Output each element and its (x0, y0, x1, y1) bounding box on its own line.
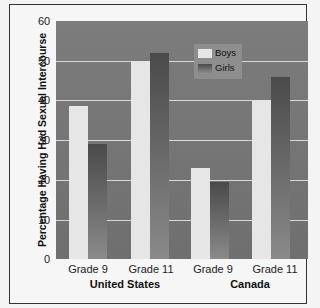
y-tick-60: 60 (38, 15, 50, 27)
bar-girls-3 (271, 77, 290, 259)
gridline-50 (56, 61, 308, 62)
x-tick-ca-grade11: Grade 11 (240, 263, 310, 275)
y-tick-20: 20 (38, 174, 50, 186)
y-tick-10: 10 (38, 214, 50, 226)
bar-boys-1 (131, 61, 150, 259)
legend-label-girls: Girls (215, 62, 235, 73)
bar-girls-0 (88, 144, 107, 259)
bar-boys-3 (252, 100, 271, 259)
legend: Boys Girls (194, 44, 242, 79)
y-tick-40: 40 (38, 94, 50, 106)
x-tick-ca-grade9: Grade 9 (178, 263, 248, 275)
legend-label-boys: Boys (215, 47, 236, 58)
legend-swatch-boys (198, 49, 212, 58)
x-tick-us-grade9: Grade 9 (53, 263, 123, 275)
group-label-canada: Canada (190, 278, 310, 290)
x-tick-us-grade11: Grade 11 (116, 263, 186, 275)
group-label-united-states: United States (65, 278, 185, 290)
bar-boys-0 (69, 106, 88, 259)
bar-girls-1 (150, 53, 169, 259)
y-tick-50: 50 (38, 55, 50, 67)
y-tick-30: 30 (38, 134, 50, 146)
legend-swatch-girls (198, 64, 212, 73)
plot-area: Boys Girls (56, 21, 308, 259)
bar-girls-2 (210, 182, 229, 259)
y-tick-0: 0 (44, 253, 50, 265)
bar-boys-2 (191, 168, 210, 259)
